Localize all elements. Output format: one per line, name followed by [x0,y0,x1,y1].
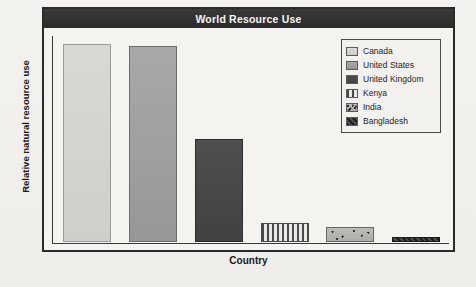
bar-slot-kenya [252,36,318,242]
legend-item-united-states[interactable]: United States [346,58,435,72]
chart-legend: Canada United States United Kingdom Keny… [341,39,441,133]
legend-label-kenya: Kenya [363,89,387,98]
bar-united-states[interactable] [129,46,177,241]
legend-swatch-bangladesh-icon [346,117,358,126]
legend-item-kenya[interactable]: Kenya [346,86,435,100]
bar-slot-united-kingdom [186,36,252,242]
bar-bangladesh[interactable] [392,237,440,241]
bar-slot-united-states [120,36,186,242]
x-axis-label: Country [42,255,455,266]
legend-swatch-canada-icon [346,47,358,56]
legend-label-united-kingdom: United Kingdom [363,75,423,84]
bar-slot-canada [55,36,121,242]
bar-kenya[interactable] [261,223,309,241]
legend-swatch-kenya-icon [346,89,358,98]
y-axis-label: Relative natural resource use [14,0,36,252]
legend-item-bangladesh[interactable]: Bangladesh [346,114,435,128]
legend-swatch-united-kingdom-icon [346,75,358,84]
legend-label-bangladesh: Bangladesh [363,117,408,126]
y-axis-label-text: Relative natural resource use [20,60,31,193]
legend-item-united-kingdom[interactable]: United Kingdom [346,72,435,86]
legend-label-canada: Canada [363,47,393,56]
chart-title-bar: World Resource Use [44,9,453,28]
legend-swatch-india-icon [346,103,358,112]
legend-label-india: India [363,103,381,112]
legend-swatch-united-states-icon [346,61,358,70]
page-title: World Resource Use [195,13,301,25]
legend-item-canada[interactable]: Canada [346,44,435,58]
bar-united-kingdom[interactable] [195,139,243,242]
chart-figure: World Resource Use [42,7,455,252]
legend-item-india[interactable]: India [346,100,435,114]
legend-label-united-states: United States [363,61,414,70]
bar-canada[interactable] [63,44,111,241]
bar-india[interactable] [326,227,374,241]
